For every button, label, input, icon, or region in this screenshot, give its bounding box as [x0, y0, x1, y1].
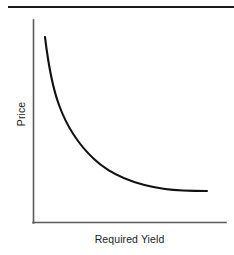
plot-area: [0, 0, 234, 255]
y-axis-label: Price: [15, 84, 27, 144]
x-axis-label: Required Yield: [33, 233, 226, 245]
price-yield-curve: [45, 37, 207, 191]
price-yield-figure: Price Required Yield: [0, 0, 234, 255]
